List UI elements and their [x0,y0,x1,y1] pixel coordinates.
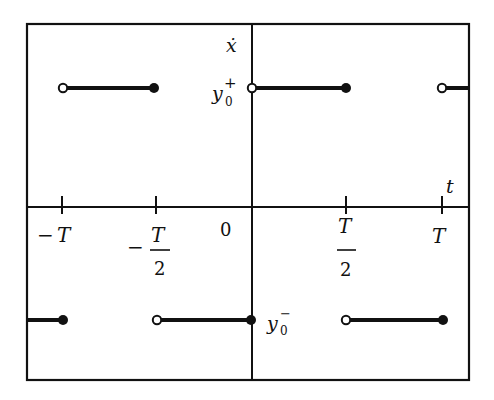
origin-label: 0 [220,219,231,240]
svg-text:T: T [57,223,72,247]
svg-text:0: 0 [225,95,233,109]
svg-text:2: 2 [154,258,165,279]
lower-level-label: y 0 − [266,306,291,338]
svg-text:y: y [266,312,278,334]
svg-text:T: T [151,223,166,247]
diagram-frame [27,24,469,380]
svg-text:−: − [37,223,54,247]
tick-label-half-T: T 2 [337,214,356,280]
tick-label-neg-half-T: − T 2 [127,223,170,279]
svg-text:T: T [338,214,353,238]
tick-label-T: T [432,224,447,248]
upper-level-label: y 0 + [211,74,237,109]
svg-text:−: − [280,306,291,321]
tick-label-neg-T: − T [37,223,72,247]
square-wave-diagram: ẋ t 0 y 0 + y 0 − − T − T 2 T 2 T [0,0,494,400]
svg-text:0: 0 [280,324,288,338]
horizontal-axis-label: t [446,175,454,197]
svg-text:T: T [432,224,447,248]
svg-text:y: y [211,82,223,104]
svg-text:2: 2 [340,259,351,280]
svg-text:+: + [224,74,237,92]
vertical-axis-label: ẋ [226,34,237,56]
svg-text:−: − [127,235,144,259]
